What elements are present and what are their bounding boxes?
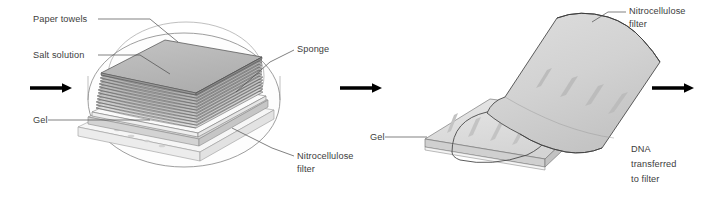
label-gel-left: Gel [33, 115, 48, 125]
label-nitrocellulose-filter-left-line2: filter [297, 164, 315, 174]
flow-arrow-left [30, 83, 72, 92]
label-dna-transferred-line2: transferred [631, 159, 677, 169]
southern-blot-figure: Paper towels Salt solution Gel Sponge Ni… [0, 0, 719, 201]
label-paper-towels: Paper towels [33, 14, 88, 24]
blot-assembly-panel: Paper towels Salt solution Gel Sponge Ni… [33, 14, 354, 174]
transferred-blot-panel: Nitrocellulose filter Gel DNA transferre… [370, 6, 686, 184]
diagram-canvas: Paper towels Salt solution Gel Sponge Ni… [0, 0, 719, 201]
label-nitrocellulose-filter-right-line2: filter [629, 19, 647, 29]
label-nitrocellulose-filter-right-line1: Nitrocellulose [629, 6, 686, 16]
label-nitrocellulose-filter-left-line1: Nitrocellulose [297, 151, 354, 161]
label-sponge: Sponge [297, 44, 329, 54]
flow-arrow-right [652, 83, 694, 92]
flow-arrow-middle [340, 83, 382, 92]
label-salt-solution: Salt solution [33, 50, 84, 60]
label-dna-transferred-line1: DNA [631, 144, 651, 154]
label-gel-right: Gel [370, 132, 385, 142]
label-dna-transferred-line3: to filter [631, 174, 659, 184]
